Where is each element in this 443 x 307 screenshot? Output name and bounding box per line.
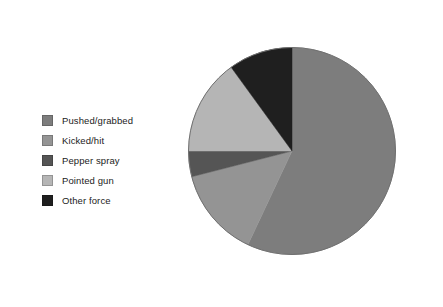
legend-item-pointed-gun: Pointed gun bbox=[42, 170, 182, 190]
legend-swatch-pushed-grabbed bbox=[42, 115, 53, 126]
legend-swatch-pepper-spray bbox=[42, 155, 53, 166]
legend-item-other-force: Other force bbox=[42, 190, 182, 210]
legend-label-other-force: Other force bbox=[62, 195, 111, 206]
pie-chart-figure: Pushed/grabbed Kicked/hit Pepper spray P… bbox=[0, 0, 443, 307]
pie-slice-group bbox=[189, 48, 396, 255]
legend-swatch-kicked-hit bbox=[42, 135, 53, 146]
chart-legend: Pushed/grabbed Kicked/hit Pepper spray P… bbox=[42, 110, 182, 210]
legend-label-pepper-spray: Pepper spray bbox=[62, 155, 120, 166]
legend-item-pepper-spray: Pepper spray bbox=[42, 150, 182, 170]
legend-label-pointed-gun: Pointed gun bbox=[62, 175, 114, 186]
legend-label-kicked-hit: Kicked/hit bbox=[62, 135, 104, 146]
pie-svg bbox=[188, 47, 396, 255]
legend-swatch-other-force bbox=[42, 195, 53, 206]
legend-item-kicked-hit: Kicked/hit bbox=[42, 130, 182, 150]
legend-item-pushed-grabbed: Pushed/grabbed bbox=[42, 110, 182, 130]
legend-label-pushed-grabbed: Pushed/grabbed bbox=[62, 115, 133, 126]
legend-swatch-pointed-gun bbox=[42, 175, 53, 186]
pie-plot-area bbox=[188, 47, 396, 255]
